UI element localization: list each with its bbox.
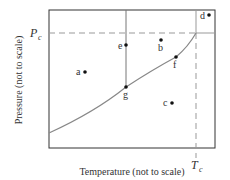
phase-diagram: P c T c Temperature (not to scale) Press… [0, 0, 230, 180]
point-c: c [163, 97, 174, 108]
svg-text:d: d [200, 10, 205, 21]
point-a: a [76, 66, 87, 77]
x-axis-label: Temperature (not to scale) [79, 166, 184, 178]
pc-label: P c [29, 26, 42, 42]
svg-text:b: b [158, 42, 163, 53]
svg-text:c: c [38, 33, 42, 42]
svg-text:T: T [191, 158, 199, 172]
point-g: g [123, 85, 128, 100]
svg-text:c: c [199, 165, 203, 174]
plot-frame [49, 10, 215, 148]
y-axis-label: Pressure (not to scale) [13, 36, 25, 125]
svg-text:f: f [173, 59, 177, 70]
svg-text:P: P [29, 26, 38, 40]
vapor-pressure-curve [49, 33, 196, 133]
tc-label: T c [191, 158, 203, 174]
svg-text:e: e [118, 40, 123, 51]
point-f: f [173, 55, 178, 70]
svg-text:c: c [163, 97, 168, 108]
svg-text:a: a [76, 66, 81, 77]
point-d: d [200, 10, 211, 21]
point-b: b [158, 38, 163, 53]
svg-text:g: g [123, 89, 128, 100]
